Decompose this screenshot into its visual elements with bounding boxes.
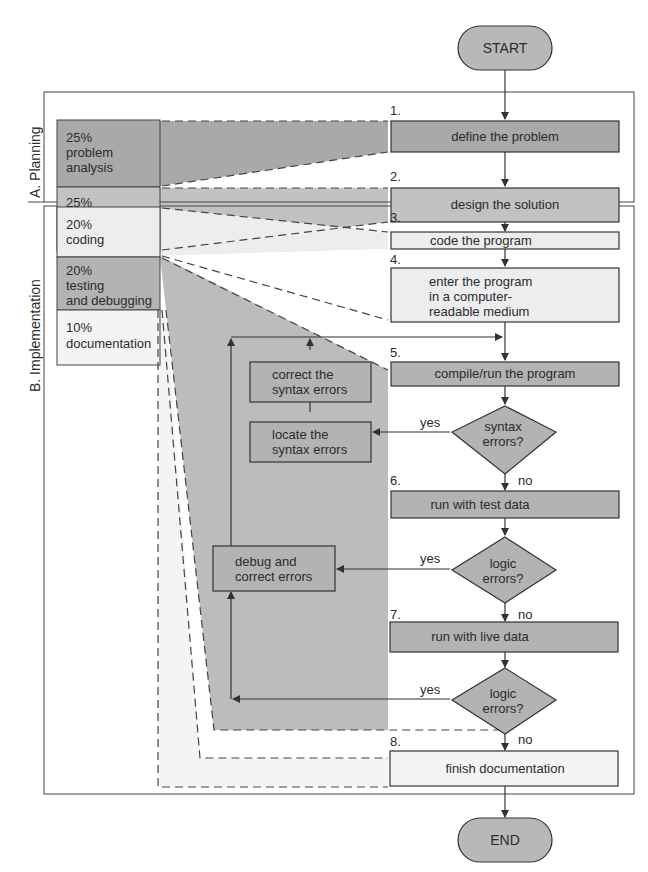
box-debug-correct-errors: debug and correct errors (213, 546, 335, 591)
svg-text:coding: coding (66, 232, 104, 247)
svg-text:20%: 20% (66, 217, 92, 232)
svg-text:syntax errors: syntax errors (272, 382, 348, 397)
svg-text:run with test data: run with test data (431, 497, 531, 512)
svg-text:debug and: debug and (235, 554, 296, 569)
box-locate-syntax-errors: locate the syntax errors (250, 422, 371, 462)
svg-text:logic: logic (490, 686, 517, 701)
phase-label-implementation: B. Implementation (27, 279, 43, 392)
svg-text:6.: 6. (390, 473, 401, 488)
decision-logic-errors-2: logic errors? (452, 668, 556, 734)
phase-label-planning: A. Planning (27, 126, 43, 198)
svg-text:correct the: correct the (272, 367, 333, 382)
wedge-problem-analysis (160, 121, 388, 186)
svg-text:2.: 2. (390, 169, 401, 184)
svg-text:errors?: errors? (482, 571, 523, 586)
svg-text:logic: logic (490, 556, 517, 571)
svg-text:yes: yes (420, 682, 441, 697)
svg-text:25%: 25% (66, 130, 92, 145)
svg-text:7.: 7. (390, 607, 401, 622)
flowchart-canvas: A. Planning B. Implementation 25% proble… (0, 0, 648, 872)
svg-text:10%: 10% (66, 320, 92, 335)
svg-text:no: no (518, 607, 532, 622)
svg-text:testing: testing (66, 278, 104, 293)
svg-text:START: START (483, 40, 528, 56)
svg-text:in a computer-: in a computer- (429, 289, 512, 304)
svg-text:problem: problem (66, 145, 113, 160)
wedge-testing (160, 256, 388, 730)
box-correct-syntax-errors: correct the syntax errors (250, 362, 371, 402)
svg-text:run with live data: run with live data (431, 629, 529, 644)
svg-text:finish documentation: finish documentation (445, 761, 564, 776)
svg-text:1.: 1. (390, 103, 401, 118)
start-terminal: START (458, 26, 552, 70)
svg-text:errors?: errors? (482, 701, 523, 716)
svg-text:8.: 8. (390, 734, 401, 749)
svg-text:20%: 20% (66, 263, 92, 278)
svg-text:5.: 5. (390, 345, 401, 360)
svg-text:code the program: code the program (430, 233, 532, 248)
end-terminal: END (458, 818, 552, 862)
svg-text:correct errors: correct errors (235, 569, 313, 584)
svg-text:no: no (518, 473, 532, 488)
svg-text:design the solution: design the solution (451, 197, 559, 212)
svg-text:define the problem: define the problem (451, 129, 559, 144)
svg-text:END: END (490, 832, 520, 848)
svg-text:syntax: syntax (484, 419, 522, 434)
svg-text:and debugging: and debugging (66, 293, 152, 308)
svg-text:enter the program: enter the program (429, 274, 532, 289)
svg-text:locate the: locate the (272, 427, 328, 442)
svg-text:errors?: errors? (482, 434, 523, 449)
svg-text:3.: 3. (390, 210, 401, 225)
svg-text:syntax errors: syntax errors (272, 442, 348, 457)
svg-text:analysis: analysis (66, 160, 113, 175)
svg-text:yes: yes (420, 551, 441, 566)
svg-text:yes: yes (420, 415, 441, 430)
svg-text:readable medium: readable medium (429, 304, 529, 319)
svg-text:documentation: documentation (66, 336, 151, 351)
decision-logic-errors-1: logic errors? (452, 537, 556, 603)
svg-text:4.: 4. (390, 252, 401, 267)
svg-text:no: no (518, 732, 532, 747)
svg-text:compile/run the program: compile/run the program (435, 366, 576, 381)
decision-syntax-errors: syntax errors? (452, 406, 556, 474)
